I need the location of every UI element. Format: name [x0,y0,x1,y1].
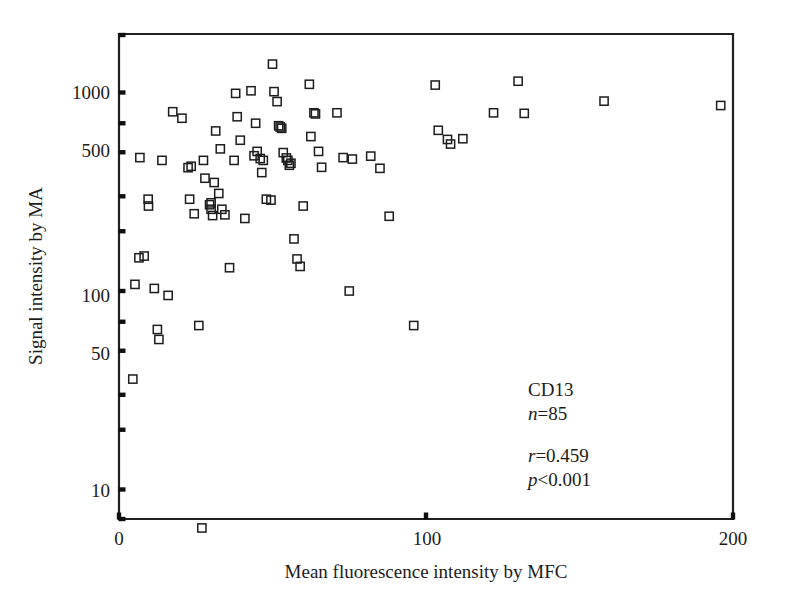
data-point [307,132,315,140]
y-tick-label-500: 500 [82,140,111,161]
x-axis-title: Mean fluorescence intensity by MFC [285,561,568,582]
data-point [155,335,163,343]
annotation-n-value: =85 [538,403,568,424]
annotation-r-value: =0.459 [535,445,588,466]
data-point [186,195,194,203]
plot-canvas: 1000 500 100 50 10 0 100 200 Mean fluore… [0,0,786,606]
data-point [131,280,139,288]
annotation-p-value: <0.001 [538,469,591,490]
annotation-n-symbol: n [528,403,538,424]
data-point [410,321,418,329]
data-point [212,127,220,135]
data-point [236,136,244,144]
data-point [367,152,375,160]
annotation-p-symbol: p [526,469,538,490]
data-point [195,321,203,329]
data-point [247,87,255,95]
annotation-marker-name: CD13 [528,379,573,400]
data-point-group [129,60,725,532]
annotation-pvalue: p<0.001 [526,469,591,490]
annotation-sample-size: n=85 [528,403,567,424]
data-point [434,126,442,134]
data-point [201,174,209,182]
data-point [215,189,223,197]
data-point [459,135,467,143]
annotation-block: CD13 n=85 r=0.459 p<0.001 [526,379,591,490]
data-point [345,287,353,295]
data-point [150,284,158,292]
data-point [279,149,287,157]
data-point [339,153,347,161]
y-axis-title: Signal intensity by MA [25,187,46,365]
data-point [318,163,326,171]
x-tick-label-200: 200 [719,528,748,549]
data-point [199,156,207,164]
data-point [129,375,137,383]
data-point [268,60,276,68]
data-point [190,210,198,218]
data-point [520,109,528,117]
data-point [290,235,298,243]
axis-frame [119,34,733,519]
x-tick-label-100: 100 [413,528,442,549]
data-point [252,119,260,127]
scatter-plot-figure: 1000 500 100 50 10 0 100 200 Mean fluore… [0,0,786,606]
data-point [431,81,439,89]
data-point [600,97,608,105]
data-point [305,80,313,88]
annotation-correlation: r=0.459 [528,445,589,466]
data-point [348,155,356,163]
data-point [233,113,241,121]
y-tick-label-1000: 1000 [72,82,110,103]
data-point [717,101,725,109]
data-point [218,205,226,213]
data-point [216,145,224,153]
data-point [258,168,266,176]
data-point [153,325,161,333]
data-point [299,202,307,210]
data-point [230,156,238,164]
data-point [273,97,281,105]
data-point [225,264,233,272]
data-point [376,164,384,172]
x-tick-label-0: 0 [114,528,124,549]
data-point [385,212,393,220]
data-point [136,153,144,161]
data-point [178,114,186,122]
y-tick-label-100: 100 [82,285,111,306]
y-tick-label-10: 10 [91,480,110,501]
data-point [221,211,229,219]
data-point [158,156,166,164]
data-point [270,88,278,96]
y-tick-label-50: 50 [91,343,110,364]
data-point [232,89,240,97]
data-point [333,109,341,117]
data-point [241,214,249,222]
data-point [314,147,322,155]
data-point [164,291,172,299]
data-point [169,108,177,116]
data-point [489,109,497,117]
data-point [514,77,522,85]
data-point [210,178,218,186]
data-point [198,524,206,532]
